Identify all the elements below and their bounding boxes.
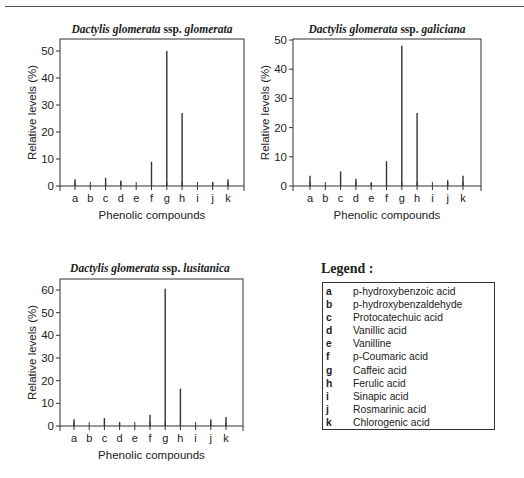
y-tick-label: 40 (274, 63, 287, 75)
y-tick-label: 0 (48, 420, 54, 432)
x-tick-label: h (414, 192, 420, 204)
legend-item: kChlorogenic acid (326, 416, 494, 429)
x-tick-label: k (460, 192, 466, 204)
x-axis-label: Phenolic compounds (98, 449, 205, 461)
x-tick-label: a (307, 192, 314, 204)
legend-box: ap-hydroxybenzoic acid bp-hydroxybenzald… (322, 282, 495, 430)
legend-item: dVanillic acid (326, 324, 494, 337)
legend-item: iSinapic acid (326, 390, 494, 403)
x-tick-label: h (177, 432, 183, 444)
y-tick-label: 20 (41, 375, 54, 387)
x-tick-label: g (399, 192, 405, 204)
x-tick-label: d (353, 192, 359, 204)
legend-heading: Legend : (321, 261, 374, 277)
x-tick-label: d (117, 432, 123, 444)
x-tick-label: c (102, 432, 108, 444)
y-tick-label: 10 (274, 151, 287, 163)
x-tick-label: e (132, 432, 138, 444)
y-tick-label: 40 (41, 329, 54, 341)
y-axis-label: Relative levels (%) (26, 305, 38, 400)
plot-area: 0102030405060abcdefghijkPhenolic compoun… (0, 0, 262, 478)
y-tick-label: 60 (41, 284, 54, 296)
x-tick-label: j (445, 192, 448, 204)
y-tick-label: 50 (41, 307, 54, 319)
x-tick-label: b (86, 432, 92, 444)
legend-item: eVanilline (326, 337, 494, 350)
legend-item: bp-hydroxybenzaldehyde (326, 298, 494, 311)
legend-item: cProtocatechuic acid (326, 311, 494, 324)
plot-frame (60, 279, 243, 426)
x-tick-label: b (322, 192, 328, 204)
legend-item: ap-hydroxybenzoic acid (326, 285, 494, 298)
legend-item: fp-Coumaric acid (326, 350, 494, 363)
y-tick-label: 50 (274, 34, 287, 46)
x-tick-label: i (431, 192, 433, 204)
y-tick-label: 30 (274, 92, 287, 104)
y-tick-label: 10 (41, 397, 54, 409)
x-tick-label: j (209, 432, 212, 444)
x-tick-label: e (368, 192, 374, 204)
y-tick-label: 20 (274, 122, 287, 134)
legend-item: hFerulic acid (326, 377, 494, 390)
x-axis-label: Phenolic compounds (334, 209, 441, 221)
x-tick-label: k (223, 432, 229, 444)
x-tick-label: f (148, 432, 152, 444)
legend-item: jRosmarinic acid (326, 403, 494, 416)
chart-lusitanica: Dactylis glomerata ssp. lusitanica 01020… (0, 0, 262, 478)
y-tick-label: 0 (281, 180, 287, 192)
x-tick-label: g (162, 432, 168, 444)
x-tick-label: a (71, 432, 78, 444)
y-tick-label: 30 (41, 352, 54, 364)
legend-item: gCaffeic acid (326, 364, 494, 377)
x-tick-label: c (338, 192, 344, 204)
x-tick-label: f (385, 192, 389, 204)
x-tick-label: i (194, 432, 196, 444)
